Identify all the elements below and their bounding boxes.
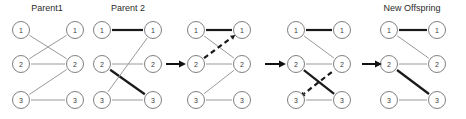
node-label-step2-right-1: 1 [340, 27, 344, 34]
panel-offspring: 123123New Offspring [381, 3, 446, 109]
node-label-offspring-left-2: 2 [387, 61, 391, 68]
edge-parent1-L3-R2-thin [29, 70, 66, 95]
node-label-step2-left-1: 1 [294, 27, 298, 34]
edge-arrowhead-step1-L2-R1 [230, 35, 235, 40]
edge-step1-L2-R1-dashed [204, 38, 232, 58]
arrow-1 [166, 60, 186, 67]
node-label-step1-right-3: 3 [240, 97, 244, 104]
node-label-step1-left-2: 2 [194, 61, 198, 68]
node-label-offspring-left-3: 3 [387, 97, 391, 104]
node-label-parent1-left-3: 3 [19, 97, 23, 104]
crossover-diagram: 123123Parent1123123Parent 21231231231231… [0, 0, 466, 119]
node-label-step2-left-2: 2 [294, 61, 298, 68]
panel-step1: 123123 [188, 22, 251, 109]
node-label-parent2-left-2: 2 [100, 61, 104, 68]
node-label-parent1-right-3: 3 [73, 97, 77, 104]
panel-title-parent2: Parent 2 [111, 3, 145, 13]
node-label-parent1-right-1: 1 [73, 27, 77, 34]
node-label-step1-left-3: 3 [194, 97, 198, 104]
arrow-2 [265, 60, 286, 67]
node-label-offspring-left-1: 1 [387, 27, 391, 34]
node-label-offspring-right-1: 1 [435, 27, 439, 34]
panel-title-parent1: Parent1 [31, 3, 63, 13]
arrow-3 [362, 60, 382, 67]
node-label-parent2-left-3: 3 [100, 97, 104, 104]
node-label-parent2-left-1: 1 [100, 27, 104, 34]
node-label-parent2-right-3: 3 [151, 97, 155, 104]
panel-parent2: 123123Parent 2 [94, 3, 162, 109]
panel-step2: 123123 [288, 22, 351, 109]
edge-step2-L3-R2-dashed [304, 72, 332, 94]
node-label-step1-left-1: 1 [194, 27, 198, 34]
edge-parent2-L3-R1-thin [108, 38, 147, 92]
diagram-canvas: 123123Parent1123123Parent 21231231231231… [0, 0, 466, 119]
node-label-offspring-right-3: 3 [435, 97, 439, 104]
panel-title-offspring: New Offspring [384, 3, 441, 13]
node-label-offspring-right-2: 2 [435, 61, 439, 68]
node-label-step2-right-2: 2 [340, 61, 344, 68]
edge-offspring-L2-R3-bold [397, 70, 429, 94]
node-label-parent2-right-1: 1 [151, 27, 155, 34]
node-label-step2-right-3: 3 [340, 97, 344, 104]
node-label-step1-right-1: 1 [240, 27, 244, 34]
arrow-1-head [179, 60, 186, 67]
node-label-parent1-right-2: 2 [73, 61, 77, 68]
panel-parent1: 123123Parent1 [13, 3, 84, 109]
node-label-parent1-left-2: 2 [19, 61, 23, 68]
node-label-step2-left-3: 3 [294, 97, 298, 104]
edge-step1-L3-R2-thin [204, 70, 234, 94]
node-label-parent2-right-2: 2 [151, 61, 155, 68]
edge-step2-L1-R2-thin [304, 36, 334, 58]
edge-offspring-L1-R2-thin [397, 36, 429, 58]
node-label-parent1-left-1: 1 [19, 27, 23, 34]
node-label-step1-right-2: 2 [240, 61, 244, 68]
arrow-2-head [279, 60, 286, 67]
